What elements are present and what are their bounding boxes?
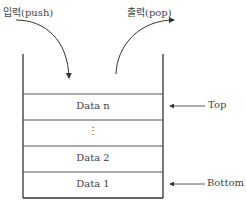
pop-arrow-icon bbox=[116, 20, 174, 74]
pop-label: 출력(pop) bbox=[127, 4, 172, 19]
bottom-label: Bottom bbox=[207, 177, 244, 188]
stack-cell-data-1: Data 1 bbox=[23, 178, 163, 189]
top-label: Top bbox=[208, 99, 226, 110]
stack-cell-ellipsis: ⋮ bbox=[23, 125, 163, 136]
stack-cell-data-2: Data 2 bbox=[23, 152, 163, 163]
push-arrow-icon bbox=[16, 20, 69, 78]
push-label: 입력(push) bbox=[3, 4, 53, 19]
stack-cell-data-n: Data n bbox=[23, 100, 163, 111]
